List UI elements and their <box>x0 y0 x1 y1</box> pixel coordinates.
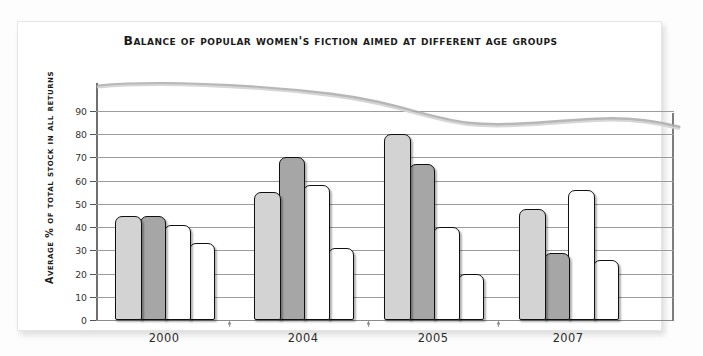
bar <box>458 274 485 320</box>
plot-area: 0102030405060708090 2000200420052007 <box>96 84 674 321</box>
x-group-separator-tick <box>229 321 230 327</box>
y-tick-label: 40 <box>75 222 87 233</box>
plot-right-edge <box>672 113 674 321</box>
x-tick-label: 2000 <box>149 331 180 345</box>
gridline <box>96 134 674 135</box>
x-tick-label: 2005 <box>418 331 449 345</box>
y-tick-mark <box>90 111 96 112</box>
y-tick-label: 10 <box>75 291 87 302</box>
y-tick-label: 90 <box>75 106 87 117</box>
y-axis-line <box>96 83 98 321</box>
bar <box>279 157 306 320</box>
gridline <box>96 111 674 112</box>
y-tick-label: 50 <box>75 198 87 209</box>
y-tick-label: 20 <box>75 268 87 279</box>
bar <box>164 225 191 320</box>
bar <box>519 209 546 320</box>
y-tick-mark <box>90 250 96 251</box>
y-tick-mark <box>90 181 96 182</box>
y-tick-mark <box>90 297 96 298</box>
y-tick-mark <box>90 227 96 228</box>
y-tick-label: 80 <box>75 129 87 140</box>
page-background: Balance of popular women's fiction aimed… <box>0 0 703 356</box>
bar <box>328 248 355 320</box>
x-group-separator-tick <box>498 321 499 327</box>
y-tick-mark <box>90 320 96 321</box>
x-tick-label: 2007 <box>553 331 584 345</box>
bar <box>384 134 411 320</box>
bar <box>544 253 571 320</box>
y-tick-mark <box>90 204 96 205</box>
y-tick-mark <box>90 274 96 275</box>
chart-card: Balance of popular women's fiction aimed… <box>17 21 662 331</box>
x-axis-line <box>96 320 674 321</box>
bar <box>593 260 620 320</box>
bar <box>303 185 330 320</box>
x-group-separator-tick <box>368 321 369 327</box>
x-tick-label: 2004 <box>288 331 319 345</box>
bar <box>568 190 595 320</box>
page-curl-curve-icon <box>96 78 681 138</box>
y-tick-label: 30 <box>75 245 87 256</box>
chart-title: Balance of popular women's fiction aimed… <box>18 33 663 48</box>
bar <box>409 164 436 320</box>
y-tick-label: 0 <box>81 315 87 326</box>
y-tick-mark <box>90 157 96 158</box>
y-tick-label: 70 <box>75 152 87 163</box>
bar <box>254 192 281 320</box>
y-axis-label: Average % of total stock in all returns <box>44 63 55 293</box>
bar <box>189 243 216 320</box>
bar <box>433 227 460 320</box>
y-tick-label: 60 <box>75 175 87 186</box>
bar <box>140 216 167 320</box>
y-tick-mark <box>90 134 96 135</box>
bar <box>115 216 142 320</box>
